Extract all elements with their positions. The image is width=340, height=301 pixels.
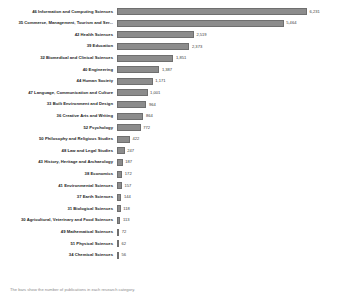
bar-value-label: 964 [149,103,156,107]
bar-segment [117,159,123,166]
bar-track: 5,464 [117,18,340,30]
bar-segment [117,147,125,154]
bar-value-label: 172 [125,172,132,176]
bar-category-label: 52 Psychology [0,126,117,130]
bar-category-label: 32 Biomedical and Clinical Sciences [0,56,117,60]
bar-row: 38 Economics172 [0,168,340,180]
bar-value-label: 247 [127,149,134,153]
bar-row: 31 Biological Sciences118 [0,203,340,215]
bar-category-label: 44 Human Society [0,79,117,83]
bar-track: 2,373 [117,41,340,53]
bar-row: 43 History, Heritage and Archaeology187 [0,157,340,169]
bar-segment [117,43,189,50]
bar-category-label: 48 Law and Legal Studies [0,149,117,153]
bar-row: 33 Built Environment and Design964 [0,99,340,111]
bar-segment [117,101,146,108]
bar-row: 44 Human Society1,171 [0,76,340,88]
bar-row: 39 Education2,373 [0,41,340,53]
bar-value-label: 62 [122,242,127,246]
bar-segment [117,136,130,143]
bar-category-label: 40 Engineering [0,68,117,72]
bar-category-label: 50 Philosophy and Religious Studies [0,137,117,141]
bar-rows: 46 Information and Computing Sciences6,2… [0,6,340,261]
bar-value-label: 1,387 [162,68,172,72]
publications-bar-chart: 46 Information and Computing Sciences6,2… [0,0,340,301]
bar-category-label: 46 Information and Computing Sciences [0,10,117,14]
bar-value-label: 2,519 [196,33,206,37]
bar-track: 72 [117,226,340,238]
bar-track: 964 [117,99,340,111]
bar-row: 36 Creative Arts and Writing864 [0,110,340,122]
bar-category-label: 47 Language, Communication and Culture [0,91,117,95]
bar-track: 56 [117,249,340,261]
bar-value-label: 1,171 [155,79,165,83]
bar-segment [117,55,173,62]
bar-category-label: 38 Economics [0,172,117,176]
bar-value-label: 1,001 [150,91,160,95]
bar-row: 50 Philosophy and Religious Studies422 [0,134,340,146]
bar-row: 40 Engineering1,387 [0,64,340,76]
bar-row: 42 Health Sciences2,519 [0,29,340,41]
bar-category-label: 51 Physical Sciences [0,242,117,246]
bar-value-label: 2,373 [192,45,202,49]
bar-track: 144 [117,192,340,204]
bar-track: 172 [117,168,340,180]
bar-segment [117,78,153,85]
bar-value-label: 118 [123,207,130,211]
bar-segment [117,229,119,236]
bar-value-label: 187 [125,160,132,164]
bar-row: 37 Earth Sciences144 [0,192,340,204]
bar-segment [117,113,143,120]
bar-row: 46 Information and Computing Sciences6,2… [0,6,340,18]
bar-row: 41 Environmental Sciences157 [0,180,340,192]
bar-row: 52 Psychology772 [0,122,340,134]
bar-segment [117,182,122,189]
bar-segment [117,31,194,38]
bar-track: 6,231 [117,6,340,18]
bar-value-label: 72 [122,230,127,234]
bar-track: 864 [117,110,340,122]
bar-value-label: 5,464 [286,21,296,25]
bar-value-label: 157 [124,184,131,188]
bar-value-label: 1,851 [176,56,186,60]
bar-row: 49 Mathematical Sciences72 [0,226,340,238]
bar-category-label: 33 Built Environment and Design [0,102,117,106]
chart-caption: The bars show the number of publications… [10,288,135,293]
bar-track: 118 [117,203,340,215]
bar-row: 34 Chemical Sciences56 [0,249,340,261]
bar-row: 47 Language, Communication and Culture1,… [0,87,340,99]
bar-segment [117,205,121,212]
bar-track: 1,387 [117,64,340,76]
bar-segment [117,124,141,131]
bar-value-label: 422 [132,137,139,141]
bar-segment [117,89,148,96]
bar-track: 113 [117,215,340,227]
bar-segment [117,240,119,247]
bar-segment [117,171,122,178]
bar-category-label: 30 Agricultural, Veterinary and Food Sci… [0,218,117,222]
bar-value-label: 864 [146,114,153,118]
bar-row: 35 Commerce, Management, Tourism and Ser… [0,18,340,30]
bar-track: 157 [117,180,340,192]
bar-row: 51 Physical Sciences62 [0,238,340,250]
bar-track: 1,851 [117,52,340,64]
bar-category-label: 43 History, Heritage and Archaeology [0,160,117,164]
bar-segment [117,8,307,15]
bar-category-label: 35 Commerce, Management, Tourism and Ser… [0,21,117,25]
bar-value-label: 144 [124,195,131,199]
bar-segment [117,252,119,259]
bar-value-label: 56 [122,253,127,257]
bar-segment [117,194,121,201]
bar-track: 772 [117,122,340,134]
bar-track: 1,171 [117,76,340,88]
bar-value-label: 113 [123,218,130,222]
bar-value-label: 6,231 [310,10,320,14]
bar-track: 187 [117,157,340,169]
bar-row: 32 Biomedical and Clinical Sciences1,851 [0,52,340,64]
bar-value-label: 772 [143,126,150,130]
bar-category-label: 42 Health Sciences [0,33,117,37]
bar-row: 48 Law and Legal Studies247 [0,145,340,157]
bar-category-label: 34 Chemical Sciences [0,253,117,257]
bar-track: 2,519 [117,29,340,41]
bar-track: 1,001 [117,87,340,99]
